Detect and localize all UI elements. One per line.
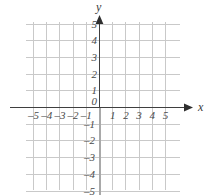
y-tick-label: 4: [81, 35, 97, 46]
y-tick-label: 5: [81, 19, 97, 30]
y-axis-label: y: [96, 1, 101, 13]
y-tick-label: –3: [79, 152, 95, 163]
x-tick-label: 5: [158, 110, 174, 121]
y-tick-label: –5: [79, 186, 95, 196]
y-tick-label: 1: [81, 85, 97, 96]
y-tick-label: 2: [81, 69, 97, 80]
coordinate-plane-canvas: [0, 0, 210, 195]
y-tick-label: –1: [79, 119, 95, 130]
x-axis-label: x: [198, 101, 203, 113]
coordinate-plane-figure: –5 –4 –3 –2 –1 1 2 3 4 5 0 5 4 3 2 1 –1 …: [0, 0, 210, 195]
y-tick-label: 3: [81, 52, 97, 63]
origin-label: 0: [81, 96, 97, 107]
x-axis-arrow-icon: [184, 103, 193, 111]
y-tick-label: –4: [79, 169, 95, 180]
y-tick-label: –2: [79, 135, 95, 146]
